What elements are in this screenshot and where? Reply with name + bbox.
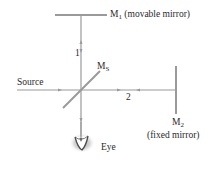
arrow-source-icon bbox=[58, 89, 62, 92]
path1-label: 1 bbox=[75, 49, 80, 59]
path2-label: 2 bbox=[126, 93, 131, 103]
arrow-path2-back-icon bbox=[136, 89, 140, 92]
m2-label: M2 bbox=[172, 118, 184, 129]
arrow-path1-up-icon bbox=[80, 40, 83, 44]
direction-arrows bbox=[58, 40, 140, 122]
m2-description: (fixed mirror) bbox=[147, 131, 200, 141]
eye-label: Eye bbox=[101, 143, 116, 153]
source-label: Source bbox=[17, 78, 43, 88]
arrow-path2-out-icon bbox=[117, 89, 121, 92]
eye-icon bbox=[69, 122, 95, 153]
ms-label: MS bbox=[97, 62, 109, 73]
arrow-to-eye-icon bbox=[80, 118, 83, 122]
m1-label: M1 (movable mirror) bbox=[110, 10, 190, 21]
